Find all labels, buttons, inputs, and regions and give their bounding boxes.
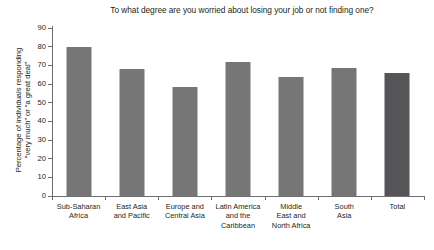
x-tick-mark <box>105 196 106 200</box>
y-tick-label: 0 <box>42 191 46 200</box>
x-label-line: East Asia <box>105 202 158 211</box>
y-tick-label: 10 <box>38 172 46 181</box>
x-label-line: Middle <box>265 202 318 211</box>
bar-4[interactable] <box>225 62 250 196</box>
y-tick-label: 80 <box>38 42 46 51</box>
bar-series <box>52 28 424 196</box>
bar-3[interactable] <box>172 87 197 196</box>
x-tick-mark <box>158 196 159 200</box>
bar-slot <box>265 28 318 196</box>
x-label-line: Total <box>371 202 424 211</box>
bar-slot <box>52 28 105 196</box>
y-tick-label: 40 <box>38 116 46 125</box>
x-label-1: Sub-SaharanAfrica <box>52 202 105 221</box>
x-tick-mark <box>211 196 212 200</box>
x-label-line: and the <box>211 211 264 220</box>
y-tick-label: 70 <box>38 60 46 69</box>
x-label-line: Latin America <box>211 202 264 211</box>
chart-title: To what degree are you worried about los… <box>56 5 428 15</box>
x-axis-labels: Sub-SaharanAfricaEast Asiaand PacificEur… <box>52 202 424 248</box>
y-tick-label: 20 <box>38 154 46 163</box>
y-tick-label: 30 <box>38 135 46 144</box>
x-label-4: Latin Americaand theCaribbean <box>211 202 264 230</box>
bar-7[interactable] <box>385 73 410 196</box>
x-tick-mark <box>424 196 425 200</box>
y-axis-label-line2: “very much” or “a great deal” <box>23 20 32 200</box>
bar-slot <box>211 28 264 196</box>
x-label-line: and Pacific <box>105 211 158 220</box>
x-label-line: Sub-Saharan <box>52 202 105 211</box>
x-label-line: Central Asia <box>158 211 211 220</box>
x-tick-mark <box>52 196 53 200</box>
bar-5[interactable] <box>279 77 304 196</box>
x-label-line: Europe and <box>158 202 211 211</box>
y-tick-label: 90 <box>38 23 46 32</box>
x-tick-mark <box>318 196 319 200</box>
bar-slot <box>105 28 158 196</box>
x-label-line: East and <box>265 211 318 220</box>
bar-6[interactable] <box>332 68 357 196</box>
plot-area: 0102030405060708090 <box>52 28 424 196</box>
x-label-line: South <box>318 202 371 211</box>
x-axis-line <box>52 196 424 197</box>
y-tick-label: 50 <box>38 98 46 107</box>
clipped-text-artifact: · · · · · · · · · · · · · · · · · · · · … <box>95 0 327 2</box>
x-tick-mark <box>371 196 372 200</box>
x-label-7: Total <box>371 202 424 211</box>
x-label-line: Africa <box>52 211 105 220</box>
y-axis-label-line1: Percentage of individuals responding <box>14 20 23 200</box>
x-label-line: Asia <box>318 211 371 220</box>
bar-slot <box>318 28 371 196</box>
x-label-2: East Asiaand Pacific <box>105 202 158 221</box>
x-label-line: Caribbean <box>211 221 264 230</box>
bar-slot <box>158 28 211 196</box>
y-tick-label: 60 <box>38 79 46 88</box>
bar-2[interactable] <box>119 69 144 196</box>
x-label-line: North Africa <box>265 221 318 230</box>
bar-1[interactable] <box>66 47 91 196</box>
y-axis-label: Percentage of individuals responding “ve… <box>14 20 40 200</box>
x-label-3: Europe andCentral Asia <box>158 202 211 221</box>
bar-slot <box>371 28 424 196</box>
x-label-5: MiddleEast andNorth Africa <box>265 202 318 230</box>
x-tick-mark <box>265 196 266 200</box>
x-label-6: SouthAsia <box>318 202 371 221</box>
bar-chart-figure: · · · · · · · · · · · · · · · · · · · · … <box>0 0 434 250</box>
